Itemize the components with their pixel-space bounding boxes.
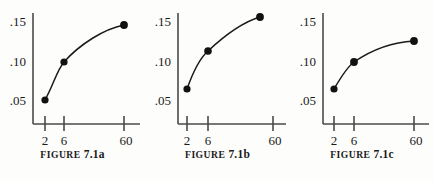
caption-number: 7.1a <box>84 148 105 160</box>
y-tick-label-15: .15 <box>10 14 26 29</box>
x-tick-label-6: 6 <box>351 133 358 145</box>
data-point <box>183 85 190 92</box>
y-tick-label-05: .05 <box>10 93 26 108</box>
y-tick-label-15: .15 <box>155 14 171 29</box>
y-tick-label-05: .05 <box>155 93 171 108</box>
figure-panel-c: .15 .10 .05 2 6 60 FIGURE 7.1c <box>290 0 434 181</box>
caption-prefix: FIGURE <box>40 149 80 160</box>
data-curve <box>334 41 414 89</box>
data-point <box>41 96 48 103</box>
x-tick-label-6: 6 <box>61 133 68 145</box>
x-tick-label-2: 2 <box>331 133 338 145</box>
y-tick-label-10: .10 <box>10 54 26 69</box>
data-point <box>120 21 128 29</box>
x-tick-label-2: 2 <box>42 133 49 145</box>
figure-panel-a: .15 .10 .05 2 6 60 <box>0 0 145 181</box>
caption-prefix: FIGURE <box>185 149 225 160</box>
figure-group: .15 .10 .05 2 6 60 <box>0 0 434 181</box>
x-tick-label-60: 60 <box>410 133 423 145</box>
data-point <box>60 58 67 65</box>
data-point <box>330 85 337 92</box>
y-tick-label-10: .10 <box>155 54 171 69</box>
x-tick-label-6: 6 <box>205 133 212 145</box>
chart-c: .15 .10 .05 2 6 60 <box>290 0 434 145</box>
chart-c-svg: .15 .10 .05 2 6 60 <box>290 0 434 145</box>
figure-caption-b: FIGURE 7.1b <box>145 148 290 160</box>
figure-caption-a: FIGURE 7.1a <box>0 148 145 160</box>
data-point <box>256 13 264 21</box>
y-tick-label-05: .05 <box>300 93 316 108</box>
data-curve <box>187 17 260 89</box>
x-tick-label-2: 2 <box>184 133 191 145</box>
figure-caption-c: FIGURE 7.1c <box>290 148 434 160</box>
y-tick-label-10: .10 <box>300 54 316 69</box>
x-tick-label-60: 60 <box>269 133 282 145</box>
chart-b-svg: .15 .10 .05 2 6 60 <box>145 0 290 145</box>
caption-number: 7.1c <box>374 148 394 160</box>
data-curve <box>45 25 124 100</box>
figure-panel-b: .15 .10 .05 2 6 60 FIGURE 7.1b <box>145 0 290 181</box>
data-point <box>410 37 418 45</box>
caption-prefix: FIGURE <box>330 149 370 160</box>
chart-a: .15 .10 .05 2 6 60 <box>0 0 145 145</box>
y-tick-label-15: .15 <box>300 14 316 29</box>
data-point <box>350 58 358 66</box>
x-tick-label-60: 60 <box>120 133 133 145</box>
chart-b: .15 .10 .05 2 6 60 <box>145 0 290 145</box>
chart-a-svg: .15 .10 .05 2 6 60 <box>0 0 145 145</box>
caption-number: 7.1b <box>228 148 250 160</box>
data-point <box>204 47 212 55</box>
